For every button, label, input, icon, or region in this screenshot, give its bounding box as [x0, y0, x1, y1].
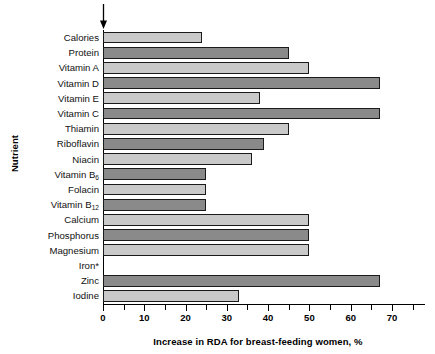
- bar-vitamin-e: [103, 92, 260, 104]
- x-tick-label-60: 60: [336, 312, 366, 323]
- x-tick-0: [103, 305, 104, 311]
- bar-row: Calcium: [103, 212, 425, 227]
- category-label-protein: Protein: [4, 45, 99, 60]
- x-tick-70: [392, 305, 393, 311]
- x-axis-line: [103, 304, 425, 305]
- x-tick-55: [330, 305, 331, 310]
- x-axis-title: Increase in RDA for breast-feeding women…: [103, 336, 413, 347]
- category-label-riboflavin: Riboflavin: [4, 136, 99, 151]
- bar-zinc: [103, 275, 380, 287]
- bar-row: Protein: [103, 45, 425, 60]
- x-tick-65: [371, 305, 372, 310]
- bar-row: Zinc: [103, 273, 425, 288]
- bar-row: Vitamin C: [103, 106, 425, 121]
- bar-vitamin-d: [103, 77, 380, 89]
- category-label-thiamin: Thiamin: [4, 121, 99, 136]
- category-label-vitamin-c: Vitamin C: [4, 106, 99, 121]
- bar-row: Magnesium: [103, 243, 425, 258]
- bar-phosphorus: [103, 229, 309, 241]
- x-tick-label-50: 50: [294, 312, 324, 323]
- bar-row: Folacin: [103, 182, 425, 197]
- bar-row: Iron*: [103, 258, 425, 273]
- x-tick-30: [227, 305, 228, 311]
- down-arrow-annotation-icon: [99, 4, 108, 30]
- bar-row: Vitamin D: [103, 76, 425, 91]
- category-label-niacin: Niacin: [4, 152, 99, 167]
- category-label-iodine: Iodine: [4, 288, 99, 303]
- bar-row: Thiamin: [103, 121, 425, 136]
- bar-row: Riboflavin: [103, 136, 425, 151]
- bar-protein: [103, 47, 289, 59]
- category-label-vitamin-d: Vitamin D: [4, 76, 99, 91]
- category-label-magnesium: Magnesium: [4, 243, 99, 258]
- bar-row: Vitamin E: [103, 91, 425, 106]
- x-tick-35: [247, 305, 248, 310]
- x-tick-45: [289, 305, 290, 310]
- x-tick-20: [186, 305, 187, 311]
- bar-vitamin-b6: [103, 168, 206, 180]
- bar-row: Vitamin B6: [103, 167, 425, 182]
- category-label-folacin: Folacin: [4, 182, 99, 197]
- x-tick-50: [309, 305, 310, 311]
- bar-magnesium: [103, 244, 309, 256]
- bar-calories: [103, 32, 202, 44]
- bar-vitamin-c: [103, 108, 380, 120]
- chart-title-cropped: [18, 0, 318, 2]
- bar-row: Vitamin A: [103, 60, 425, 75]
- x-tick-label-70: 70: [377, 312, 407, 323]
- category-label-phosphorus: Phosphorus: [4, 228, 99, 243]
- x-tick-25: [206, 305, 207, 310]
- bar-row: Iodine: [103, 288, 425, 303]
- x-tick-label-40: 40: [253, 312, 283, 323]
- x-tick-60: [351, 305, 352, 311]
- bar-row: Niacin: [103, 152, 425, 167]
- bar-vitamin-b12: [103, 199, 206, 211]
- bar-thiamin: [103, 123, 289, 135]
- x-tick-label-30: 30: [212, 312, 242, 323]
- bar-row: Phosphorus: [103, 228, 425, 243]
- plot-area: CaloriesProteinVitamin AVitamin DVitamin…: [103, 30, 425, 304]
- x-tick-40: [268, 305, 269, 311]
- category-label-iron: Iron*: [4, 258, 99, 273]
- bar-row: Vitamin B12: [103, 197, 425, 212]
- x-tick-15: [165, 305, 166, 310]
- category-label-vitamin-b12: Vitamin B12: [4, 197, 99, 213]
- x-tick-label-10: 10: [129, 312, 159, 323]
- bar-folacin: [103, 184, 206, 196]
- bar-chart: Nutrient CaloriesProteinVitamin AVitamin…: [0, 0, 435, 354]
- bar-row: Calories: [103, 30, 425, 45]
- bar-iodine: [103, 290, 239, 302]
- category-label-vitamin-e: Vitamin E: [4, 91, 99, 106]
- x-tick-label-0: 0: [88, 312, 118, 323]
- x-tick-10: [144, 305, 145, 311]
- bar-calcium: [103, 214, 309, 226]
- category-label-vitamin-b6: Vitamin B6: [4, 167, 99, 183]
- bar-niacin: [103, 153, 252, 165]
- category-label-zinc: Zinc: [4, 273, 99, 288]
- category-label-calcium: Calcium: [4, 212, 99, 227]
- category-label-vitamin-a: Vitamin A: [4, 60, 99, 75]
- x-tick-label-20: 20: [171, 312, 201, 323]
- x-tick-75: [413, 305, 414, 310]
- x-tick-5: [124, 305, 125, 310]
- bar-vitamin-a: [103, 62, 309, 74]
- bar-riboflavin: [103, 138, 264, 150]
- category-label-calories: Calories: [4, 30, 99, 45]
